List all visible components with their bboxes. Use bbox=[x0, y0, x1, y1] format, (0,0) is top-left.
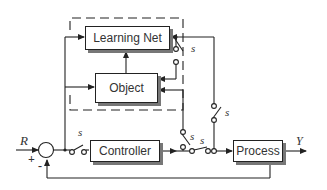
plus-sign: + bbox=[28, 152, 35, 167]
switch-label-process-input: s bbox=[225, 106, 229, 118]
learning-net-block: Learning Net bbox=[85, 26, 170, 50]
switch-label-controller: s bbox=[78, 126, 82, 138]
minus-sign: - bbox=[38, 159, 42, 174]
process-block: Process bbox=[233, 140, 283, 162]
switch-label-learning-net: s bbox=[191, 42, 195, 54]
object-block: Object bbox=[95, 73, 158, 103]
switch-label-object: s bbox=[190, 130, 194, 142]
reference-label: R bbox=[20, 133, 28, 149]
switch-label-series: s bbox=[200, 134, 204, 146]
output-label: Y bbox=[296, 134, 303, 149]
controller-block: Controller bbox=[90, 140, 160, 162]
summing-junction bbox=[39, 143, 54, 158]
